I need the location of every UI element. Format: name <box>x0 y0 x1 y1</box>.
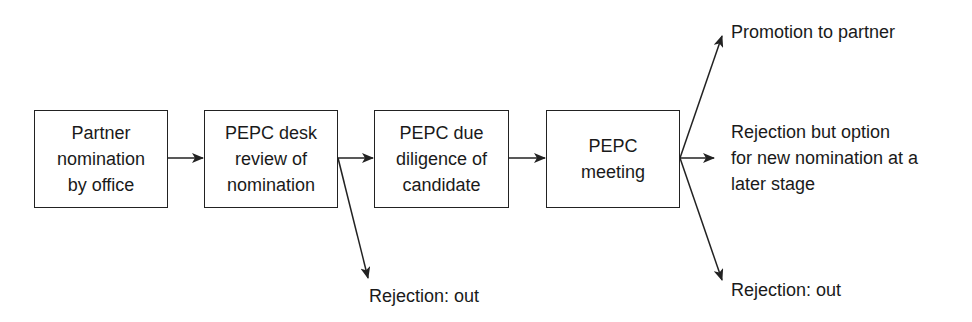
box-label: PEPC meeting <box>581 133 645 185</box>
arrow-b4-final-rejection <box>680 158 722 280</box>
box-due-diligence: PEPC due diligence of candidate <box>374 110 509 208</box>
box-pepc-meeting: PEPC meeting <box>546 110 680 208</box>
arrow-b4-promotion <box>680 36 722 158</box>
arrow-b2-rejection <box>338 158 368 278</box>
outcome-final-rejection: Rejection: out <box>731 277 841 303</box>
box-label: PEPC due diligence of candidate <box>396 120 487 198</box>
outcome-rejection-option: Rejection but option for new nomination … <box>731 119 918 197</box>
outcome-promotion: Promotion to partner <box>731 19 895 45</box>
box-label: Partner nomination by office <box>57 120 145 198</box>
box-label: PEPC desk review of nomination <box>225 120 317 198</box>
outcome-desk-rejection: Rejection: out <box>369 283 479 309</box>
box-partner-nomination: Partner nomination by office <box>34 110 168 208</box>
box-desk-review: PEPC desk review of nomination <box>204 110 338 208</box>
